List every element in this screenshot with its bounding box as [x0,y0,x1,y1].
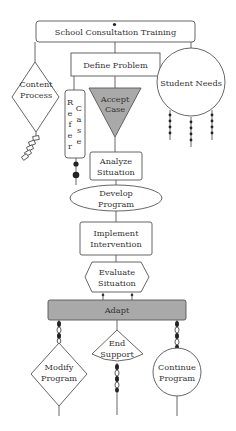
node-student-needs: Student Needs [157,48,225,116]
svg-text:Program: Program [98,199,134,209]
svg-text:r: r [68,141,72,151]
node-end-support: End Support [92,330,143,361]
svg-text:Continue: Continue [158,362,196,372]
end-support-chain [115,363,119,415]
svg-text:Support: Support [100,349,134,359]
svg-text:Case: Case [105,104,125,114]
svg-text:End: End [109,338,126,348]
svg-text:e: e [68,130,73,140]
svg-text:e: e [68,108,73,118]
svg-text:R: R [67,97,74,107]
node-content-process: Content Process [12,62,59,132]
svg-text:Analyze: Analyze [99,156,133,166]
adapt-continue-chain [175,320,179,350]
node-evaluate-situation: Evaluate Situation [85,262,149,292]
svg-text:Evaluate: Evaluate [99,267,136,277]
svg-text:s: s [77,125,81,135]
node-refer-case: R e f e r C a s e [65,90,85,158]
node-school-consultation-training: School Consultation Training [36,21,195,42]
svg-text:Process: Process [20,90,52,100]
svg-text:C: C [76,103,82,113]
svg-text:a: a [77,114,82,124]
pin-icon [113,23,116,26]
node-continue-program: Continue Program [153,348,201,396]
node-accept-case: Accept Case [89,88,141,137]
svg-text:Situation: Situation [98,278,137,288]
bead-icon [73,172,80,179]
svg-text:Content: Content [19,79,53,89]
svg-text:School Consultation Training: School Consultation Training [55,27,176,37]
node-implement-intervention: Implement Intervention [80,222,152,255]
svg-text:Student Needs: Student Needs [160,78,222,88]
svg-text:Adapt: Adapt [104,305,130,315]
svg-text:e: e [77,136,82,146]
adapt-modify-chain [57,320,61,344]
bead-icon [73,161,78,166]
svg-text:Intervention: Intervention [90,239,142,249]
node-modify-program: Modify Program [31,343,87,406]
content-process-chain [21,132,39,160]
node-develop-program: Develop Program [70,185,162,211]
consultation-flow-diagram: School Consultation Training Define Prob… [0,0,236,431]
node-adapt: Adapt [48,300,186,320]
node-analyze-situation: Analyze Situation [90,152,142,180]
svg-text:Program: Program [41,373,77,383]
svg-text:Accept: Accept [100,94,130,104]
svg-text:Define Problem: Define Problem [83,60,148,70]
node-define-problem: Define Problem [71,53,160,76]
svg-text:Modify: Modify [45,362,74,372]
svg-text:Program: Program [159,373,195,383]
svg-text:Situation: Situation [97,167,136,177]
svg-text:Implement: Implement [94,228,140,238]
svg-text:Develop: Develop [99,188,133,198]
